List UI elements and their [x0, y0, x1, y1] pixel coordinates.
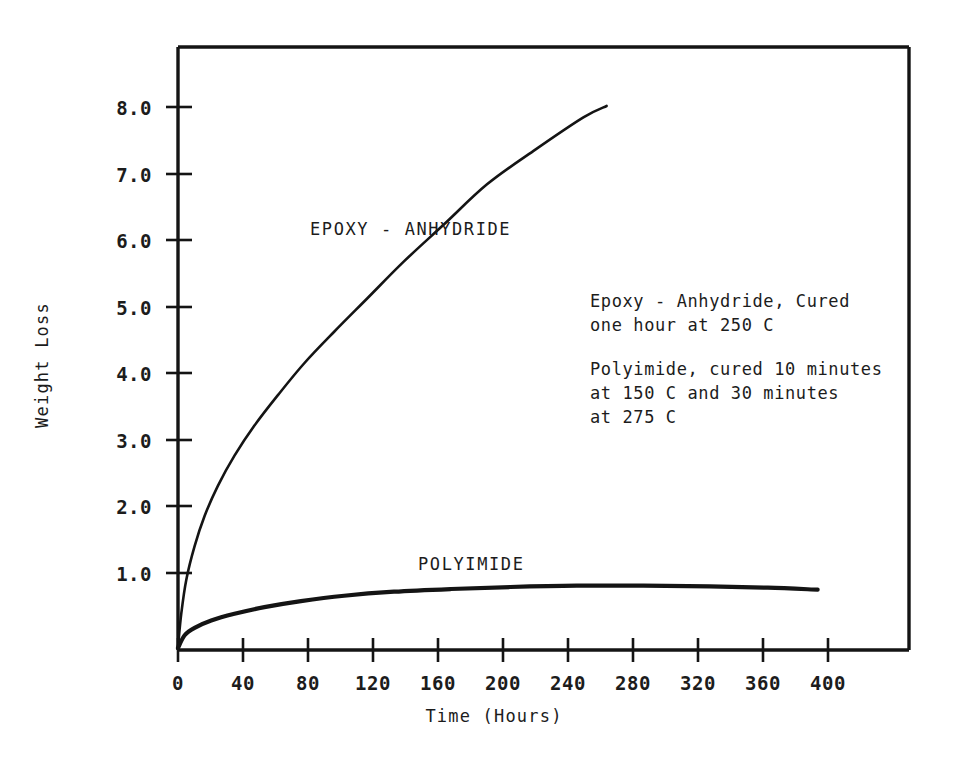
y-tick-label-7: 7.0	[116, 164, 152, 186]
y-tick-label-4: 4.0	[116, 363, 152, 385]
y-tick-label-8: 8.0	[116, 97, 152, 119]
x-tick-label-360: 360	[745, 672, 781, 694]
polyimide-curve	[178, 586, 818, 648]
annotation-note-block: Epoxy - Anhydride, Cured one hour at 250…	[590, 291, 883, 427]
x-tick-label-80: 80	[296, 672, 320, 694]
y-tick-label-1: 1.0	[116, 563, 152, 585]
x-tick-label-320: 320	[680, 672, 716, 694]
x-tick-label-240: 240	[550, 672, 586, 694]
x-tick-label-0: 0	[172, 672, 184, 694]
x-tick-label-40: 40	[231, 672, 255, 694]
weight-loss-chart: 1.0 2.0 3.0 4.0 5.0 6.0 7.0 8.0 0 40 80 …	[0, 0, 959, 766]
epoxy-anhydride-label: EPOXY - ANHYDRIDE	[310, 219, 511, 239]
x-tick-label-200: 200	[485, 672, 521, 694]
note-line-2: one hour at 250 C	[590, 315, 774, 335]
y-tick-label-5: 5.0	[116, 297, 152, 319]
plot-frame	[178, 47, 909, 650]
epoxy-anhydride-curve	[178, 106, 607, 647]
x-axis-tick-labels: 0 40 80 120 160 200 240 280 320 360 400	[172, 672, 846, 694]
polyimide-label: POLYIMIDE	[418, 554, 525, 574]
x-tick-label-280: 280	[615, 672, 651, 694]
y-axis-tick-labels: 1.0 2.0 3.0 4.0 5.0 6.0 7.0 8.0	[116, 97, 152, 585]
x-axis-title: Time (Hours)	[425, 706, 562, 726]
curve-labels: EPOXY - ANHYDRIDE POLYIMIDE	[310, 219, 525, 574]
x-tick-label-160: 160	[420, 672, 456, 694]
y-tick-label-3: 3.0	[116, 430, 152, 452]
y-tick-label-2: 2.0	[116, 496, 152, 518]
x-tick-label-400: 400	[810, 672, 846, 694]
note-line-3: Polyimide, cured 10 minutes	[590, 359, 883, 379]
figure-root: 1.0 2.0 3.0 4.0 5.0 6.0 7.0 8.0 0 40 80 …	[0, 0, 959, 766]
y-axis-title: Weight Loss	[32, 302, 52, 428]
x-tick-label-120: 120	[355, 672, 391, 694]
note-line-5: at 275 C	[590, 407, 677, 427]
note-line-4: at 150 C and 30 minutes	[590, 383, 839, 403]
note-line-1: Epoxy - Anhydride, Cured	[590, 291, 850, 311]
y-tick-label-6: 6.0	[116, 230, 152, 252]
